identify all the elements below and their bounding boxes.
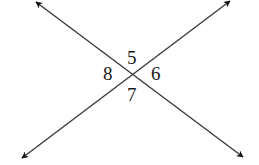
angle-label-top: 5: [127, 47, 137, 68]
line-b: [22, 1, 230, 158]
angle-label-right: 6: [151, 63, 161, 84]
line-a: [36, 2, 243, 157]
angle-label-bottom: 7: [127, 84, 137, 105]
angle-label-left: 8: [103, 63, 113, 84]
intersecting-lines-diagram: 5 6 7 8: [0, 0, 259, 165]
